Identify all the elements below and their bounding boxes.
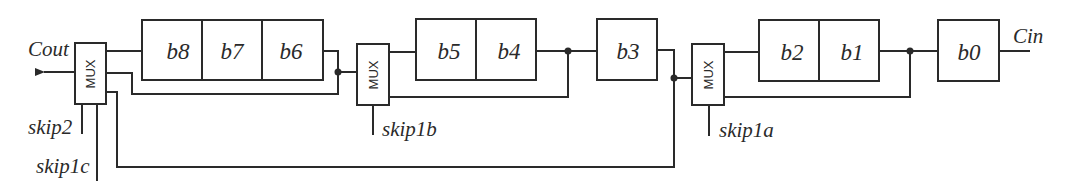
mux-a: MUX — [692, 44, 724, 105]
carry-skip-diagram: Cout MUX skip2 skip1c b8 b7 b6 MUX skip1… — [0, 0, 1068, 190]
bit-b7: b7 — [221, 39, 246, 64]
bit-b8: b8 — [167, 39, 191, 64]
skip1a-label: skip1a — [719, 118, 774, 142]
bit-b0: b0 — [958, 40, 982, 65]
bit-b4: b4 — [498, 39, 521, 64]
cout-label: Cout — [28, 37, 70, 61]
bit-b2: b2 — [781, 40, 804, 65]
mux-a-label: MUX — [701, 60, 716, 89]
junction-3 — [671, 75, 678, 82]
skip1b-label: skip1b — [382, 117, 437, 141]
mux-c-label: MUX — [83, 59, 98, 88]
mux-c: MUX — [75, 43, 106, 104]
bit-b6: b6 — [280, 39, 304, 64]
mux-b: MUX — [357, 44, 389, 105]
group-54: b5 b4 — [416, 19, 536, 80]
skip1c-label: skip1c — [36, 154, 90, 178]
group-3: b3 — [597, 19, 657, 80]
group-0: b0 — [938, 20, 999, 81]
group-21: b2 b1 — [759, 20, 879, 81]
group-876: b8 b7 b6 — [142, 20, 323, 80]
junction-1 — [335, 69, 342, 76]
bit-b1: b1 — [841, 40, 864, 65]
mux-b-label: MUX — [366, 60, 381, 89]
bit-b3: b3 — [617, 39, 640, 64]
skip2-label: skip2 — [28, 115, 73, 139]
bit-b5: b5 — [438, 39, 461, 64]
cin-label: Cin — [1013, 24, 1043, 48]
junction-4 — [907, 48, 914, 55]
junction-2 — [565, 48, 572, 55]
